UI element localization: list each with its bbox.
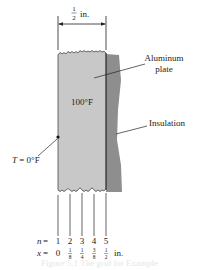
svg-text:0: 0: [56, 248, 61, 258]
boundary-node-icon: [56, 135, 59, 138]
svg-text:3: 3: [93, 247, 96, 253]
dimension-denominator: 2: [72, 14, 76, 22]
insulation-leader-line: [116, 126, 147, 134]
plate-label-line2: plate: [155, 64, 173, 74]
grid-lines: [58, 193, 106, 236]
svg-text:x: x: [36, 248, 41, 258]
svg-text:2: 2: [68, 236, 73, 246]
svg-text:1: 1: [81, 247, 84, 253]
insulation-region: [106, 54, 122, 192]
svg-text:5: 5: [104, 236, 109, 246]
arrow-left-icon: [58, 22, 63, 25]
svg-text:4: 4: [92, 236, 97, 246]
svg-text:=: =: [43, 248, 48, 258]
svg-text:1: 1: [69, 247, 72, 253]
svg-text:1: 1: [56, 236, 61, 246]
svg-text:1: 1: [105, 247, 108, 253]
dimension-label: 1 2 in.: [72, 5, 90, 22]
insulation-label: Insulation: [149, 118, 185, 128]
plate-label-line1: Aluminum: [144, 53, 183, 63]
heat-conduction-diagram: 1 2 in. Aluminum plate 100°F Insulation …: [0, 0, 199, 270]
figure-caption: Figure 5.1 The grid for Example: [0, 258, 199, 268]
node-index-row: n = 1 2 3 4 5: [37, 236, 109, 246]
boundary-leader-line: [38, 139, 57, 156]
dimension-unit: in.: [80, 9, 89, 19]
svg-text:n: n: [37, 236, 42, 246]
svg-text:in.: in.: [114, 248, 123, 258]
arrow-right-icon: [101, 22, 106, 25]
initial-temperature: 100°F: [71, 97, 93, 107]
svg-text:=: =: [43, 236, 48, 246]
boundary-label: T = 0°F: [12, 155, 40, 165]
aluminum-plate: [58, 51, 106, 192]
svg-text:3: 3: [80, 236, 85, 246]
dimension-numerator: 1: [72, 5, 76, 13]
